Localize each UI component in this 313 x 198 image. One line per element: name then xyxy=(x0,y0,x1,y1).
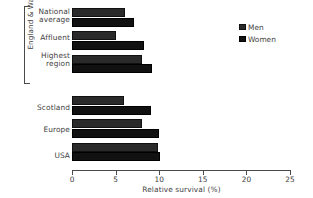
x-tick-mark-20 xyxy=(246,171,247,175)
bar-highest-region-women xyxy=(72,64,152,73)
relative-survival-bar-chart: England & Wales National average Affluen… xyxy=(0,0,313,198)
x-tick-mark-10 xyxy=(159,171,160,175)
bar-europe-women xyxy=(72,129,159,138)
bar-scotland-men xyxy=(72,96,124,105)
legend-swatch-men-icon xyxy=(239,24,246,31)
category-label-national-average: National average xyxy=(8,8,70,24)
bar-affluent-women xyxy=(72,41,144,50)
x-tick-label-15: 15 xyxy=(192,175,214,184)
x-tick-label-25: 25 xyxy=(279,175,301,184)
bar-europe-men xyxy=(72,119,142,128)
x-tick-mark-0 xyxy=(72,171,73,175)
category-label-affluent: Affluent xyxy=(8,34,70,42)
x-tick-label-10: 10 xyxy=(148,175,170,184)
x-tick-label-5: 5 xyxy=(105,175,127,184)
x-tick-label-20: 20 xyxy=(235,175,257,184)
x-tick-mark-5 xyxy=(116,171,117,175)
bar-affluent-men xyxy=(72,31,116,40)
bar-highest-region-men xyxy=(72,55,142,64)
x-axis-line xyxy=(72,170,291,171)
category-label-highest-region: Highest region xyxy=(8,52,70,68)
x-tick-mark-25 xyxy=(290,171,291,175)
legend-swatch-women-icon xyxy=(239,36,246,43)
bar-national-average-women xyxy=(72,18,134,27)
bar-usa-women xyxy=(72,152,160,161)
legend-item-men[interactable]: Men xyxy=(239,22,309,32)
category-label-usa: USA xyxy=(8,152,70,160)
legend-label-men: Men xyxy=(248,23,264,32)
bar-national-average-men xyxy=(72,8,125,17)
legend-item-women[interactable]: Women xyxy=(239,34,309,44)
category-label-list: National average Affluent Highest region… xyxy=(8,0,70,175)
x-tick-label-0: 0 xyxy=(61,175,83,184)
category-label-line2: average xyxy=(39,15,70,24)
category-label-line2: region xyxy=(46,59,70,68)
legend-label-women: Women xyxy=(248,35,276,44)
bar-scotland-women xyxy=(72,106,151,115)
bar-usa-men xyxy=(72,143,158,152)
x-tick-mark-15 xyxy=(203,171,204,175)
category-label-europe: Europe xyxy=(8,126,70,134)
legend: Men Women xyxy=(239,22,309,46)
category-label-scotland: Scotland xyxy=(8,104,70,112)
x-axis-title: Relative survival (%) xyxy=(72,185,291,194)
